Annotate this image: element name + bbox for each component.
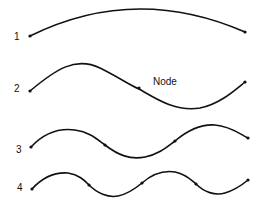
mode-4: 4 [17,172,250,197]
endpoint-right [246,136,249,139]
node-point [87,183,90,186]
node-point [173,139,176,142]
node-label: Node [153,76,177,87]
node-point [103,143,106,146]
wave-mode-2 [30,64,245,109]
node-point [140,181,143,184]
endpoint-left [28,89,31,92]
endpoint-right [243,30,246,33]
wave-mode-3 [31,125,248,158]
mode-label-1: 1 [14,31,20,42]
endpoint-left [28,34,31,37]
endpoint-right [243,80,246,83]
mode-label-2: 2 [14,83,20,94]
mode-3: 3 [16,125,250,158]
mode-2: 2 Node [14,64,247,109]
endpoint-left [29,145,32,148]
standing-wave-diagram: 1 2 Node 3 4 [0,0,265,206]
mode-label-3: 3 [16,144,22,155]
mode-label-4: 4 [17,182,23,193]
endpoint-right [246,178,249,181]
mode-1: 1 [14,9,247,42]
node-point [137,86,140,89]
node-point [194,182,197,185]
wave-mode-1 [30,9,245,36]
wave-mode-4 [32,172,248,197]
endpoint-left [30,187,33,190]
